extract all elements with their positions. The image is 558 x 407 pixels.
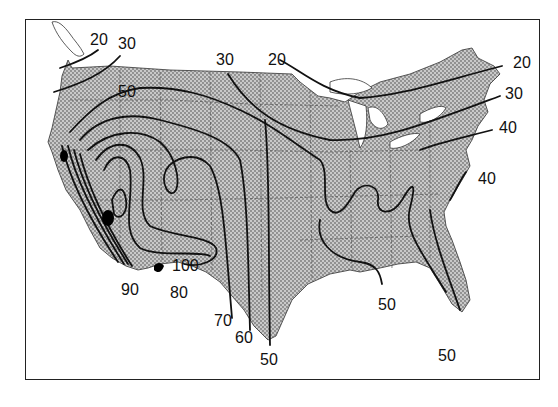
- contour-label: 30: [216, 52, 234, 68]
- contour-label: 60: [235, 330, 253, 346]
- contour-label: 90: [121, 282, 139, 298]
- contour-label: 50: [378, 297, 396, 313]
- contour-label: 50: [260, 352, 278, 368]
- contour-label: 20: [268, 52, 286, 68]
- contour-label: 40: [499, 120, 517, 136]
- contour-label: 40: [478, 171, 496, 187]
- contour-label: 100: [172, 258, 199, 274]
- contour-label: 20: [513, 55, 531, 71]
- contour-label: 30: [505, 86, 523, 102]
- contour-label: 20: [90, 32, 108, 48]
- contour-label: 70: [214, 313, 232, 329]
- contour-label: 50: [118, 84, 136, 100]
- contour-label: 30: [118, 36, 136, 52]
- contour-label: 50: [438, 348, 456, 364]
- vancouver-island: [52, 22, 84, 57]
- contour-label: 80: [170, 285, 188, 301]
